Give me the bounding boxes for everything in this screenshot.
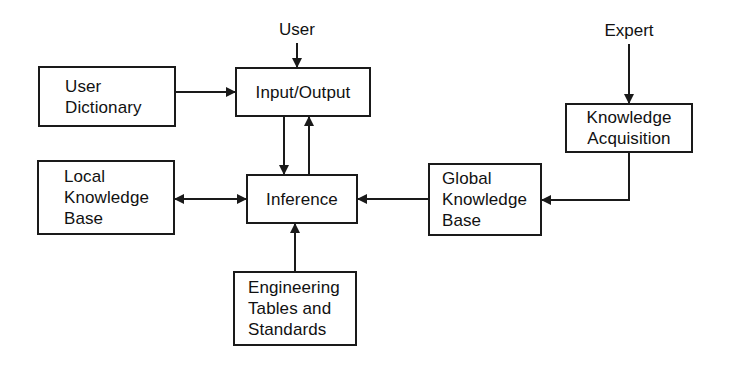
input-output-box: Input/Output bbox=[235, 67, 371, 117]
arrow-acquisition-to-globalkb bbox=[542, 152, 629, 200]
inference-label: Inference bbox=[266, 189, 338, 210]
knowledge-system-diagram: User Expert User Dictionary Input/Output… bbox=[0, 0, 729, 367]
inference-box: Inference bbox=[246, 174, 358, 224]
engineering-tables-label: Engineering Tables and Standards bbox=[248, 277, 340, 340]
input-output-label: Input/Output bbox=[256, 82, 351, 103]
user-dictionary-box: User Dictionary bbox=[38, 66, 176, 127]
engineering-tables-box: Engineering Tables and Standards bbox=[233, 271, 357, 346]
expert-label: Expert bbox=[604, 21, 653, 41]
user-label: User bbox=[279, 20, 315, 40]
local-knowledge-base-box: Local Knowledge Base bbox=[37, 160, 175, 235]
global-knowledge-base-box: Global Knowledge Base bbox=[428, 163, 542, 236]
knowledge-acquisition-box: Knowledge Acquisition bbox=[565, 103, 693, 153]
local-knowledge-base-label: Local Knowledge Base bbox=[64, 166, 149, 229]
knowledge-acquisition-label: Knowledge Acquisition bbox=[586, 107, 671, 149]
user-dictionary-label: User Dictionary bbox=[65, 76, 142, 118]
global-knowledge-base-label: Global Knowledge Base bbox=[442, 168, 527, 231]
